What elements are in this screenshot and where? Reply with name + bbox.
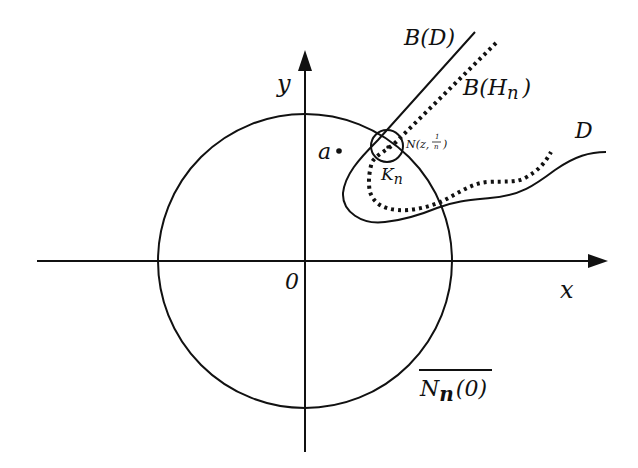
x-axis-label: x	[560, 276, 574, 304]
neighborhood-frac-num: 1	[435, 133, 439, 141]
point-a-label: a	[318, 139, 331, 164]
closure-nn0-label: Nn(0)	[419, 370, 492, 406]
kn-label: Kn	[380, 164, 403, 187]
svg-text:Nn(0): Nn(0)	[419, 376, 487, 406]
origin-label: 0	[285, 269, 299, 294]
boundary-hn-label: B(Hn)	[462, 75, 531, 103]
neighborhood-label: N(z, 1 n )	[405, 133, 447, 151]
x-axis-arrow-icon	[588, 254, 608, 268]
boundary-d-label: B(D)	[403, 25, 455, 50]
kn-subscript: n	[394, 171, 403, 187]
y-axis-arrow-icon	[298, 50, 312, 71]
point-z-dot	[386, 145, 390, 149]
svg-text:N(z,: N(z,	[405, 138, 429, 151]
point-a-dot	[336, 148, 342, 154]
svg-text:): )	[442, 138, 447, 151]
region-d-label: D	[574, 118, 593, 143]
closure-subscript: n	[439, 382, 454, 406]
diagram-figure: a y x 0 B(D) B(Hn) D N(z, 1 n ) Kn Nn(0)	[0, 0, 638, 468]
y-axis	[298, 50, 312, 452]
boundary-d-curve	[343, 32, 606, 222]
boundary-hn-subscript: n	[507, 82, 519, 103]
y-axis-label: y	[276, 70, 291, 98]
neighborhood-frac-den: n	[434, 143, 439, 151]
x-axis	[37, 254, 608, 268]
